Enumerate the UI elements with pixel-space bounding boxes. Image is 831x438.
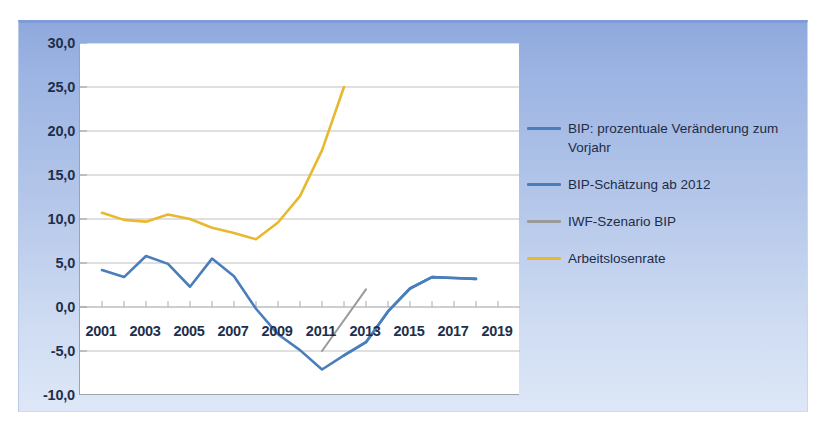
legend-color-swatch xyxy=(527,127,561,130)
x-tick-label: 2005 xyxy=(173,323,204,339)
series-line-3 xyxy=(102,87,344,239)
x-axis-labels: 2001200320052007200920112013201520172019 xyxy=(79,323,519,345)
x-tick-label: 2015 xyxy=(393,323,424,339)
x-tick-label: 2001 xyxy=(85,323,116,339)
y-tick-label: 20,0 xyxy=(23,123,75,139)
legend-label: BIP: prozentuale Veränderung zum Vorjahr xyxy=(568,119,793,157)
y-tick-label: 30,0 xyxy=(23,35,75,51)
x-tick-label: 2013 xyxy=(349,323,380,339)
legend-item[interactable]: BIP: prozentuale Veränderung zum Vorjahr xyxy=(527,119,799,157)
x-tick-label: 2003 xyxy=(129,323,160,339)
x-tick-label: 2007 xyxy=(217,323,248,339)
legend-color-swatch xyxy=(527,220,561,223)
y-tick-label: 10,0 xyxy=(23,211,75,227)
chart-legend: BIP: prozentuale Veränderung zum Vorjahr… xyxy=(527,119,799,286)
legend-label: IWF-Szenario BIP xyxy=(568,212,676,231)
x-tick-label: 2019 xyxy=(481,323,512,339)
legend-item[interactable]: Arbeitslosenrate xyxy=(527,249,799,268)
legend-label: Arbeitslosenrate xyxy=(568,249,666,268)
y-axis-labels: 30,025,020,015,010,05,00,0-5,0-10,0 xyxy=(19,43,75,395)
legend-color-swatch xyxy=(527,257,561,260)
y-tick-label: 25,0 xyxy=(23,79,75,95)
legend-item[interactable]: IWF-Szenario BIP xyxy=(527,212,799,231)
x-tick-label: 2017 xyxy=(437,323,468,339)
legend-label: BIP-Schätzung ab 2012 xyxy=(568,175,711,194)
legend-item[interactable]: BIP-Schätzung ab 2012 xyxy=(527,175,799,194)
figure: 30,025,020,015,010,05,00,0-5,0-10,0 2001… xyxy=(0,0,831,438)
chart-frame: 30,025,020,015,010,05,00,0-5,0-10,0 2001… xyxy=(18,20,808,412)
y-tick-label: 5,0 xyxy=(23,255,75,271)
y-tick-label: -5,0 xyxy=(23,343,75,359)
series-line-0 xyxy=(102,256,476,370)
legend-color-swatch xyxy=(527,183,561,186)
x-tick-label: 2009 xyxy=(261,323,292,339)
x-tick-label: 2011 xyxy=(306,323,336,339)
y-tick-label: 15,0 xyxy=(23,167,75,183)
y-tick-label: 0,0 xyxy=(23,299,75,315)
figure-caption xyxy=(20,424,810,438)
y-tick-label: -10,0 xyxy=(23,387,75,403)
